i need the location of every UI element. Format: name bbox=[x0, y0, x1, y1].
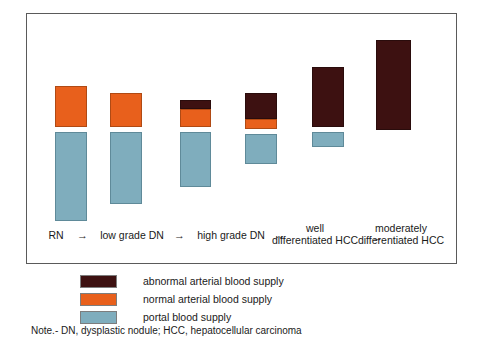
stage-label-low-grade-dn: low grade DN bbox=[91, 229, 173, 241]
bar-2-portal bbox=[110, 132, 142, 204]
bar-4-portal bbox=[245, 134, 277, 164]
stage-label-moderately-diff-hcc: moderately differentiated HCC bbox=[347, 222, 455, 246]
legend-label-normal-arterial: normal arterial blood supply bbox=[143, 292, 272, 307]
stage-label-low-grade-dn-line1: low grade DN bbox=[100, 229, 164, 241]
legend-label-abnormal-arterial: abnormal arterial blood supply bbox=[143, 274, 284, 289]
bar-4-abnormal-arterial bbox=[245, 93, 277, 119]
stage-label-moderately-diff-hcc-line2: differentiated HCC bbox=[347, 234, 455, 246]
stage-axis-labels: RN → low grade DN → high grade DN → well… bbox=[27, 215, 456, 257]
stage-label-rn: RN bbox=[35, 229, 77, 241]
chart-frame: RN → low grade DN → high grade DN → well… bbox=[26, 13, 457, 264]
bar-5-portal bbox=[312, 132, 344, 147]
legend-item-abnormal-arterial: abnormal arterial blood supply bbox=[80, 274, 380, 290]
stage-label-high-grade-dn-line1: high grade DN bbox=[197, 229, 265, 241]
stage-arrow-2: → bbox=[174, 229, 185, 241]
stage-arrow-1: → bbox=[77, 229, 88, 241]
stage-label-rn-line1: RN bbox=[48, 229, 63, 241]
bar-3-portal bbox=[180, 132, 211, 187]
bar-1-normal-arterial bbox=[55, 86, 87, 127]
legend-label-portal: portal blood supply bbox=[143, 310, 231, 325]
legend-swatch-portal bbox=[80, 311, 117, 324]
bar-4-normal-arterial bbox=[245, 119, 277, 129]
bar-5-abnormal-arterial bbox=[312, 67, 344, 127]
bar-3-abnormal-arterial bbox=[180, 100, 211, 109]
bar-1-portal bbox=[55, 132, 87, 221]
legend-swatch-abnormal-arterial bbox=[80, 275, 117, 288]
bar-3-normal-arterial bbox=[180, 109, 211, 127]
legend-swatch-normal-arterial bbox=[80, 293, 117, 306]
figure-footnote: Note.- DN, dysplastic nodule; HCC, hepat… bbox=[31, 324, 302, 337]
legend: abnormal arterial blood supply normal ar… bbox=[80, 274, 380, 328]
legend-item-normal-arterial: normal arterial blood supply bbox=[80, 292, 380, 308]
stage-label-well-diff-hcc-line1: well bbox=[306, 222, 324, 234]
bar-6-abnormal-arterial bbox=[376, 40, 411, 130]
stage-label-moderately-diff-hcc-line1: moderately bbox=[375, 222, 427, 234]
bar-2-normal-arterial bbox=[110, 93, 142, 127]
